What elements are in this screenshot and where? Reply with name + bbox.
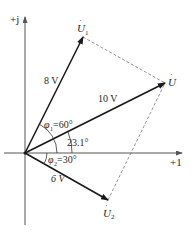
origin-point xyxy=(24,152,27,155)
real-axis-label: +1 xyxy=(170,156,182,168)
label-u1: U 1 · xyxy=(77,16,89,37)
magnitude-u: 10 V xyxy=(98,93,118,104)
phasor-u1 xyxy=(25,37,83,153)
magnitude-u1: 8 V xyxy=(44,75,59,86)
svg-text:·: · xyxy=(105,201,108,210)
arc-phi2 xyxy=(44,153,47,164)
angle-phi2-label: φ 2 =30° xyxy=(48,154,77,167)
imag-axis-label: +j xyxy=(10,13,19,25)
angle-phi1-label: φ 1 =60° xyxy=(44,119,73,132)
svg-text:2: 2 xyxy=(111,213,115,221)
svg-text:·: · xyxy=(79,16,82,25)
svg-text:·: · xyxy=(170,70,173,79)
magnitude-u2: 6 V xyxy=(51,173,67,184)
label-u: U · xyxy=(168,70,177,88)
dashed-u1-to-u xyxy=(83,37,165,83)
label-u2: U 2 · xyxy=(103,201,115,221)
svg-text:=60°: =60° xyxy=(53,119,73,130)
phasor-diagram: +j +1 U 1 · U · U 2 · 8 V 10 V 6 V φ 1 =… xyxy=(0,0,196,236)
angle-result-label: 23.1° xyxy=(67,137,89,148)
phasor-u xyxy=(25,83,165,153)
svg-text:1: 1 xyxy=(85,29,89,37)
svg-text:=30°: =30° xyxy=(57,154,77,165)
